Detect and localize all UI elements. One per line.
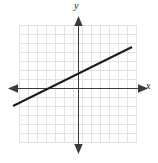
x-axis-label: x (146, 81, 150, 91)
coordinate-plane (0, 0, 158, 163)
y-axis-label: y (74, 1, 78, 11)
graph-screenshot: y x (0, 0, 158, 163)
